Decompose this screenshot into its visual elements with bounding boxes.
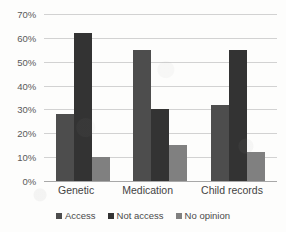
x-axis-category-labels: GeneticMedicationChild records (44, 184, 277, 196)
y-axis-tick-label: 20% (17, 128, 36, 139)
x-axis-category-label: Medication (122, 184, 173, 196)
legend-label: No opinion (185, 210, 230, 221)
bar-chart: 0%10%20%30%40%50%60%70% GeneticMedicatio… (0, 0, 286, 232)
legend-item[interactable]: Access (56, 210, 96, 221)
legend-swatch-icon (176, 213, 182, 219)
bar-group (56, 14, 110, 181)
y-axis-tick-label: 60% (17, 32, 36, 43)
bar (229, 50, 247, 181)
x-axis-category-label: Genetic (58, 184, 94, 196)
chart-legend: AccessNot accessNo opinion (0, 210, 286, 221)
legend-label: Access (65, 210, 96, 221)
y-axis-tick-label: 0% (22, 176, 36, 187)
bar-group (133, 14, 187, 181)
y-axis-tick-label: 40% (17, 80, 36, 91)
bar-group (211, 14, 265, 181)
bar (169, 145, 187, 181)
axis-baseline (44, 181, 277, 182)
y-axis-tick-label: 70% (17, 9, 36, 20)
legend-swatch-icon (108, 213, 114, 219)
y-axis-tick-label: 30% (17, 104, 36, 115)
bar (211, 105, 229, 181)
plot-area (44, 14, 277, 181)
bar-groups (44, 14, 277, 181)
legend-item[interactable]: No opinion (176, 210, 230, 221)
bar (247, 152, 265, 181)
bar (56, 114, 74, 181)
legend-swatch-icon (56, 213, 62, 219)
x-axis-category-label: Child records (201, 184, 263, 196)
y-axis-tick-labels: 0%10%20%30%40%50%60%70% (0, 14, 40, 181)
bar (74, 33, 92, 181)
y-axis-tick-label: 50% (17, 56, 36, 67)
bar (133, 50, 151, 181)
y-axis-tick-label: 10% (17, 152, 36, 163)
bar (92, 157, 110, 181)
legend-label: Not access (117, 210, 164, 221)
legend-item[interactable]: Not access (108, 210, 164, 221)
bar (151, 109, 169, 181)
